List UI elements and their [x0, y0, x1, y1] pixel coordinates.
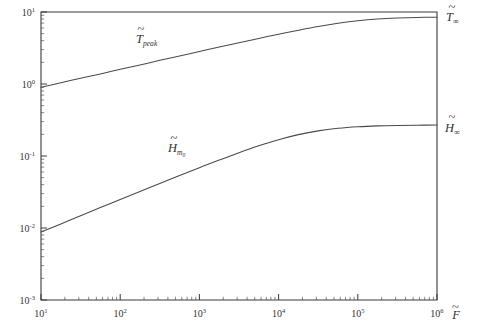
curve-label-h-m0-text: Hm0 [167, 141, 186, 159]
x-axis-tick-labels: 101102103104105106 [34, 307, 444, 319]
asymptote-label-t-inf: ~ T∞ [446, 0, 459, 26]
y-tick-label-0: 101 [22, 6, 35, 18]
curve-label-h-m0: ~ Hm0 [167, 131, 186, 159]
y-axis-tick-labels: 10110010-110-210-3 [20, 6, 36, 306]
curve-h-m0 [41, 125, 437, 232]
y-tick-label-2: 10-1 [20, 150, 36, 162]
curve-label-t-peak: ~ Tpeak [136, 22, 158, 48]
asymptote-label-t-inf-text: T∞ [446, 10, 459, 26]
minor-tick-marks [41, 15, 433, 300]
x-tick-label-0: 101 [34, 307, 47, 319]
asymptote-label-t-inf-subscript: ∞ [453, 17, 459, 26]
x-tick-label-3: 104 [272, 307, 286, 319]
plot-frame [41, 12, 437, 300]
y-tick-label-3: 10-2 [20, 222, 36, 234]
y-tick-label-4: 10-3 [20, 294, 36, 306]
x-tick-label-1: 102 [114, 307, 127, 319]
x-tick-label-4: 105 [351, 307, 365, 319]
figure-container: 101102103104105106 10110010-110-210-3 ~ … [0, 0, 478, 326]
x-tick-label-2: 103 [193, 307, 207, 319]
curve-label-t-peak-text: Tpeak [136, 32, 158, 49]
y-tick-label-1: 100 [22, 78, 36, 90]
asymptote-label-h-inf: ~ H∞ [444, 110, 460, 137]
major-tick-marks [41, 12, 437, 300]
log-log-plot: 101102103104105106 10110010-110-210-3 ~ … [0, 0, 478, 326]
x-axis-title: ~ F [451, 300, 460, 322]
curve-t-peak [41, 17, 437, 87]
x-axis-title-label: F [451, 308, 460, 322]
curve-label-h-m0-subscript-index: 0 [183, 152, 186, 158]
asymptote-label-h-inf-subscript: ∞ [454, 128, 460, 137]
data-curves [41, 17, 437, 232]
curve-label-t-peak-subscript: peak [142, 39, 158, 48]
x-tick-label-5: 106 [430, 307, 444, 319]
asymptote-label-h-inf-text: H∞ [444, 121, 460, 137]
